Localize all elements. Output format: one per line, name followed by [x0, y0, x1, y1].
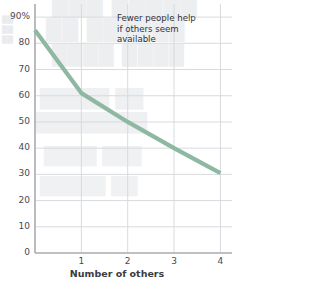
- chart-annotation: Fewer people help if others seem availab…: [117, 13, 196, 45]
